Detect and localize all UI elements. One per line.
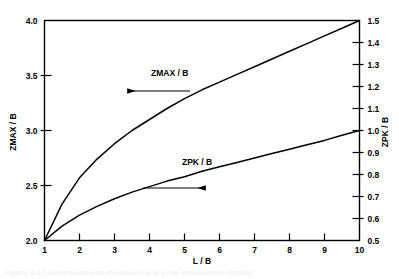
y-axis-right-tick-labels: 0.50.60.70.80.91.01.11.21.31.41.5 (368, 16, 380, 246)
y-axis-right-tick-label: 0.6 (368, 214, 380, 224)
series-line-zmax (45, 21, 360, 241)
x-axis-tick-label: 2 (77, 245, 82, 255)
plot-frame (45, 21, 360, 241)
y-axis-left-tick-label: 4.0 (26, 16, 38, 26)
x-axis-tick-label: 5 (182, 245, 187, 255)
x-axis-ticks (80, 234, 325, 241)
x-axis-tick-label: 1 (42, 245, 47, 255)
x-axis-tick-label: 10 (355, 245, 365, 255)
annotation-zmax-label: ZMAX / B (151, 68, 188, 78)
series-line-zpk (45, 131, 360, 241)
y-axis-right-tick-label: 0.5 (368, 236, 380, 246)
x-axis-tick-label: 8 (287, 245, 292, 255)
y-axis-right-tick-label: 0.8 (368, 170, 380, 180)
y-axis-left-title: ZMAX / B (8, 113, 18, 150)
y-axis-right-tick-label: 0.7 (368, 192, 380, 202)
y-axis-left-tick-labels: 2.02.53.03.54.0 (26, 16, 38, 246)
y-axis-right-tick-label: 1.2 (368, 82, 380, 92)
y-axis-left-tick-label: 2.5 (26, 181, 38, 191)
x-axis-tick-label: 6 (217, 245, 222, 255)
y-axis-left-ticks (41, 76, 52, 186)
x-axis-tick-labels: 12345678910 (42, 245, 364, 255)
y-axis-right-tick-label: 1.0 (368, 126, 380, 136)
y-axis-right-tick-label: 1.3 (368, 60, 380, 70)
y-axis-left-tick-label: 3.0 (26, 126, 38, 136)
annotation-zpk-label: ZPK / B (182, 157, 212, 167)
line-chart: 2.02.53.03.54.0 0.50.60.70.80.91.01.11.2… (0, 0, 399, 279)
y-axis-right-tick-label: 0.9 (368, 148, 380, 158)
x-axis-title: L / B (193, 256, 211, 266)
figure-container: 2.02.53.03.54.0 0.50.60.70.80.91.01.11.2… (0, 0, 399, 279)
y-axis-right-title: ZPK / B (380, 117, 390, 147)
x-axis-tick-label: 4 (147, 245, 152, 255)
y-axis-right-tick-label: 1.4 (368, 38, 380, 48)
y-axis-left-tick-label: 3.5 (26, 71, 38, 81)
x-axis-tick-label: 9 (322, 245, 327, 255)
figure-caption: Figure 4-13 Dimensionless maximum and pe… (4, 268, 253, 277)
x-axis-tick-label: 7 (252, 245, 257, 255)
y-axis-right-tick-label: 1.5 (368, 16, 380, 26)
x-axis-tick-label: 3 (112, 245, 117, 255)
y-axis-left-tick-label: 2.0 (26, 236, 38, 246)
y-axis-right-tick-label: 1.1 (368, 104, 380, 114)
